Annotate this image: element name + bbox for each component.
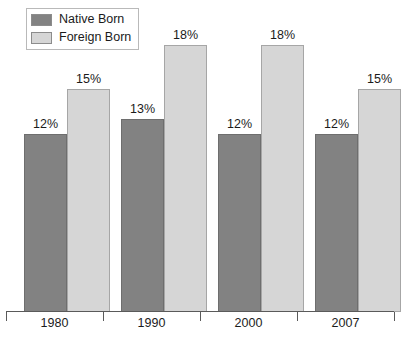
chart-legend: Native Born Foreign Born: [26, 8, 139, 50]
legend-swatch-foreign-born: [31, 32, 52, 44]
bar-value-label-foreign-born-1980: 15%: [67, 73, 110, 86]
x-axis-tick-2: [200, 312, 201, 321]
bar-foreign-born-2007: [358, 89, 401, 312]
bar-foreign-born-1980: [67, 89, 110, 312]
bar-value-label-foreign-born-1990: 18%: [164, 29, 207, 42]
x-axis-label-1980: 1980: [6, 316, 103, 330]
x-axis-tick-1: [103, 312, 104, 321]
bar-value-label-foreign-born-2000: 18%: [261, 29, 304, 42]
bar-native-born-1990: [121, 119, 164, 312]
bar-value-label-native-born-1980: 12%: [24, 118, 67, 131]
bar-value-label-native-born-2000: 12%: [218, 118, 261, 131]
x-axis-tick-3: [297, 312, 298, 321]
bar-native-born-1980: [24, 134, 67, 312]
bar-value-label-foreign-born-2007: 15%: [358, 73, 401, 86]
bar-foreign-born-2000: [261, 45, 304, 312]
bar-native-born-2000: [218, 134, 261, 312]
legend-label-native-born: Native Born: [59, 13, 124, 26]
x-axis-label-2000: 2000: [200, 316, 297, 330]
bar-native-born-2007: [315, 134, 358, 312]
bar-foreign-born-1990: [164, 45, 207, 312]
bar-value-label-native-born-2007: 12%: [315, 118, 358, 131]
x-axis-label-1990: 1990: [103, 316, 200, 330]
bar-value-label-native-born-1990: 13%: [121, 103, 164, 116]
x-axis-tick-0: [6, 312, 7, 321]
x-axis-label-2007: 2007: [297, 316, 394, 330]
legend-item-native-born: Native Born: [31, 12, 131, 27]
bar-chart: Native Born Foreign Born 12%15%13%18%12%…: [0, 0, 408, 339]
legend-swatch-native-born: [31, 14, 52, 26]
legend-item-foreign-born: Foreign Born: [31, 30, 131, 45]
legend-label-foreign-born: Foreign Born: [59, 31, 131, 44]
x-axis-tick-4: [394, 312, 395, 321]
